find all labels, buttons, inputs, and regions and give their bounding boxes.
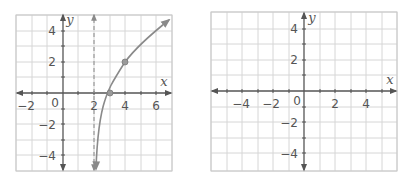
left-origin-label: 0 [51, 96, 59, 110]
left-xtick-6: 6 [152, 99, 160, 113]
right-xtick-4: 4 [362, 97, 370, 111]
right-y-axis-label: y [307, 10, 316, 25]
right-ytick-4: 4 [290, 22, 298, 36]
left-ytick-2: 2 [48, 55, 56, 69]
left-ytick-neg4: −4 [38, 149, 56, 163]
point-3-0 [107, 90, 113, 96]
right-x-axis-label: x [386, 72, 394, 87]
right-ytick-2: 2 [290, 53, 298, 67]
right-xtick-2: 2 [331, 97, 339, 111]
right-ytick-neg2: −2 [280, 116, 298, 130]
right-xtick-neg4: −4 [232, 97, 250, 111]
graphs-canvas: −2 0 2 4 6 4 2 −2 −4 x y [0, 0, 410, 183]
left-y-axis-label: y [65, 12, 74, 27]
point-4-2 [122, 59, 128, 65]
left-xtick-neg2: −2 [17, 99, 35, 113]
left-ytick-neg2: −2 [38, 118, 56, 132]
right-graph: −4 −2 0 2 4 4 2 −2 −4 x y [211, 10, 397, 171]
right-origin-label: 0 [293, 94, 301, 108]
left-xtick-4: 4 [121, 99, 129, 113]
right-ytick-neg4: −4 [280, 147, 298, 161]
left-graph: −2 0 2 4 6 4 2 −2 −4 x y [16, 12, 172, 171]
right-xtick-neg2: −2 [262, 97, 280, 111]
left-ytick-4: 4 [48, 24, 56, 38]
left-x-axis-label: x [160, 74, 168, 89]
